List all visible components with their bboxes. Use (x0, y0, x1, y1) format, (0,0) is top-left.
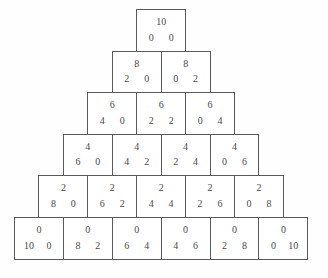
cell-top-value: 4 (113, 142, 161, 152)
cell-bottom-left-value: 8 (69, 241, 87, 251)
cell-top-value: 8 (162, 59, 210, 69)
cell-bottom-left-value: 2 (118, 74, 136, 84)
cell-bottom-right-value: 4 (211, 116, 229, 126)
lattice-cell: 082 (63, 217, 113, 260)
cell-top-value: 6 (186, 100, 234, 110)
triangular-lattice-diagram: 1000820802640622604460442424406280262244… (0, 0, 328, 278)
cell-bottom-left-value: 2 (191, 199, 209, 209)
cell-bottom-right-value: 2 (138, 157, 156, 167)
lattice-cell: 280 (38, 175, 88, 218)
cell-top-value: 0 (211, 225, 259, 235)
cell-bottom-left-value: 4 (167, 241, 185, 251)
cell-bottom-right-value: 4 (162, 199, 180, 209)
lattice-cell: 802 (161, 51, 211, 94)
lattice-cell: 064 (112, 217, 162, 260)
lattice-cell: 208 (234, 175, 284, 218)
cell-top-value: 0 (64, 225, 112, 235)
cell-bottom-right-value: 10 (284, 241, 302, 251)
cell-bottom-left-value: 2 (167, 157, 185, 167)
cell-bottom-right-value: 0 (64, 199, 82, 209)
cell-bottom-left-value: 0 (216, 157, 234, 167)
lattice-cell: 046 (161, 217, 211, 260)
cell-bottom-right-value: 4 (138, 241, 156, 251)
cell-top-value: 8 (113, 59, 161, 69)
lattice-cell: 244 (136, 175, 186, 218)
cell-top-value: 0 (162, 225, 210, 235)
lattice-row: 1000 (136, 9, 186, 52)
lattice-cell: 0010 (258, 217, 308, 260)
cell-bottom-right-value: 0 (113, 116, 131, 126)
cell-bottom-left-value: 0 (264, 241, 282, 251)
cell-top-value: 4 (162, 142, 210, 152)
cell-top-value: 0 (259, 225, 307, 235)
lattice-cell: 604 (185, 92, 235, 135)
cell-bottom-left-value: 8 (44, 199, 62, 209)
lattice-row: 640622604 (87, 92, 235, 135)
cell-bottom-right-value: 6 (187, 241, 205, 251)
cell-bottom-right-value: 2 (162, 116, 180, 126)
cell-bottom-left-value: 4 (93, 116, 111, 126)
cell-top-value: 2 (88, 183, 136, 193)
cell-bottom-left-value: 0 (142, 33, 160, 43)
cell-bottom-right-value: 2 (187, 74, 205, 84)
cell-bottom-right-value: 8 (235, 241, 253, 251)
cell-bottom-right-value: 0 (40, 241, 58, 251)
lattice-cell: 1000 (136, 9, 186, 52)
lattice-cell: 424 (161, 134, 211, 177)
lattice-cell: 262 (87, 175, 137, 218)
lattice-row: 820802 (112, 51, 211, 94)
cell-bottom-right-value: 2 (89, 241, 107, 251)
cell-bottom-left-value: 0 (167, 74, 185, 84)
cell-top-value: 6 (137, 100, 185, 110)
lattice-cell: 0100 (14, 217, 64, 260)
lattice-cell: 622 (136, 92, 186, 135)
cell-top-value: 2 (235, 183, 283, 193)
lattice-cell: 406 (210, 134, 260, 177)
cell-top-value: 10 (137, 17, 185, 27)
cell-bottom-left-value: 4 (142, 199, 160, 209)
cell-bottom-left-value: 10 (20, 241, 38, 251)
cell-bottom-left-value: 6 (118, 241, 136, 251)
lattice-cell: 028 (210, 217, 260, 260)
cell-top-value: 4 (211, 142, 259, 152)
cell-bottom-left-value: 4 (118, 157, 136, 167)
cell-bottom-left-value: 2 (216, 241, 234, 251)
cell-bottom-left-value: 6 (69, 157, 87, 167)
cell-bottom-left-value: 0 (191, 116, 209, 126)
lattice-cell: 442 (112, 134, 162, 177)
cell-bottom-left-value: 6 (93, 199, 111, 209)
cell-top-value: 2 (137, 183, 185, 193)
cell-bottom-right-value: 6 (211, 199, 229, 209)
cell-top-value: 4 (64, 142, 112, 152)
cell-top-value: 2 (186, 183, 234, 193)
cell-bottom-right-value: 4 (187, 157, 205, 167)
cell-bottom-right-value: 6 (235, 157, 253, 167)
cell-top-value: 2 (39, 183, 87, 193)
lattice-row: 01000820640460280010 (14, 217, 308, 260)
lattice-cell: 820 (112, 51, 162, 94)
lattice-row: 280262244226208 (38, 175, 283, 218)
cell-bottom-right-value: 8 (260, 199, 278, 209)
lattice-cell: 226 (185, 175, 235, 218)
cell-bottom-right-value: 2 (113, 199, 131, 209)
lattice-cell: 460 (63, 134, 113, 177)
cell-bottom-left-value: 2 (142, 116, 160, 126)
cell-top-value: 0 (15, 225, 63, 235)
lattice-row: 460442424406 (63, 134, 260, 177)
cell-bottom-right-value: 0 (162, 33, 180, 43)
cell-bottom-left-value: 0 (240, 199, 258, 209)
cell-top-value: 6 (88, 100, 136, 110)
cell-bottom-right-value: 0 (89, 157, 107, 167)
cell-bottom-right-value: 0 (138, 74, 156, 84)
cell-top-value: 0 (113, 225, 161, 235)
lattice-cell: 640 (87, 92, 137, 135)
